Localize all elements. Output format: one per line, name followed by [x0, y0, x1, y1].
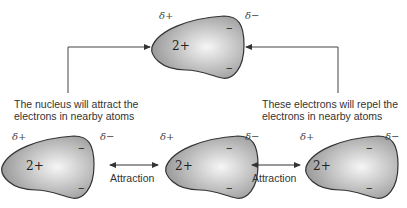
connector-right — [246, 47, 338, 93]
electron: − — [78, 182, 84, 194]
electron: − — [226, 142, 232, 154]
nucleus-charge: 2+ — [172, 39, 190, 53]
delta-plus-label: δ+ — [12, 131, 26, 142]
electron: − — [366, 142, 372, 154]
delta-minus-label: δ− — [100, 131, 114, 142]
delta-plus-label: δ+ — [159, 10, 173, 21]
delta-minus-label: δ− — [245, 10, 259, 21]
delta-minus-label: δ− — [245, 131, 259, 142]
electron: − — [226, 22, 232, 34]
electron: − — [78, 142, 84, 154]
connector-left — [68, 47, 150, 93]
nucleus-charge: 2+ — [175, 159, 193, 173]
electron: − — [226, 62, 232, 74]
caption-attract: The nucleus will attract the electrons i… — [14, 98, 138, 122]
diagram: δ+ δ− 2+ − − The nucleus will attract th… — [0, 0, 407, 208]
electron: − — [366, 182, 372, 194]
electron: − — [226, 182, 232, 194]
caption-repel: These electrons will repel the electrons… — [262, 98, 398, 122]
delta-minus-label: δ− — [385, 131, 399, 142]
delta-plus-label: δ+ — [300, 131, 314, 142]
delta-plus-label: δ+ — [160, 131, 174, 142]
nucleus-charge: 2+ — [313, 159, 331, 173]
attraction-label: Attraction — [110, 172, 154, 184]
nucleus-charge: 2+ — [26, 159, 44, 173]
attraction-label: Attraction — [252, 172, 296, 184]
